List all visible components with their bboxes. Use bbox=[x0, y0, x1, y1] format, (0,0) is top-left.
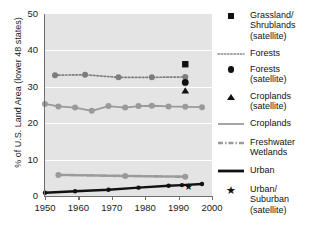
series-line-freshwater-wetlands bbox=[58, 175, 185, 177]
x-tick-mark-1980 bbox=[145, 196, 146, 200]
x-tick-label-1950: 1950 bbox=[27, 203, 63, 213]
series-point bbox=[115, 74, 121, 80]
series-point bbox=[182, 174, 188, 180]
series-point bbox=[52, 72, 58, 78]
series-point bbox=[122, 173, 128, 179]
chart-legend: Grassland/ Shrublands (satellite) Forest… bbox=[216, 6, 322, 228]
y-axis-line bbox=[44, 14, 45, 197]
series-point bbox=[149, 103, 155, 109]
legend-item-croplands[interactable]: Croplands bbox=[216, 118, 291, 129]
legend-label-croplands-satellite: Croplands (satellite) bbox=[246, 91, 291, 112]
x-tick-label-1990: 1990 bbox=[161, 203, 197, 213]
satellite-marker-triangle bbox=[181, 87, 189, 93]
legend-item-forests[interactable]: Forests bbox=[216, 48, 280, 59]
y-tick-label-30: 30 bbox=[14, 82, 38, 92]
x-tick-label-1980: 1980 bbox=[127, 203, 163, 213]
series-point bbox=[55, 172, 61, 178]
x-axis-line bbox=[44, 196, 212, 197]
series-point bbox=[182, 104, 188, 110]
legend-item-croplands-satellite[interactable]: Croplands (satellite) bbox=[216, 91, 291, 112]
legend-key-square-icon bbox=[216, 10, 246, 21]
series-point bbox=[55, 103, 61, 109]
series-point bbox=[166, 184, 170, 188]
legend-item-grassland-shrublands-satellite[interactable]: Grassland/ Shrublands (satellite) bbox=[216, 10, 296, 41]
x-tick-mark-1990 bbox=[179, 196, 180, 200]
chart-root: % of U.S. Land Area (lower 48 states) 50… bbox=[0, 0, 322, 233]
series-point bbox=[149, 74, 155, 80]
satellite-marker-square bbox=[182, 61, 188, 67]
series-layer: ★ bbox=[45, 14, 212, 196]
x-tick-label-1970: 1970 bbox=[94, 203, 130, 213]
legend-key-solid-gray-line-icon bbox=[216, 118, 246, 129]
legend-key-circle-icon bbox=[216, 64, 246, 75]
x-tick-mark-2000 bbox=[212, 196, 213, 200]
series-point bbox=[105, 103, 111, 109]
series-point bbox=[89, 108, 95, 114]
legend-label-forests-satellite: Forests (satellite) bbox=[246, 64, 287, 85]
y-tick-label-40: 40 bbox=[14, 45, 38, 55]
series-point bbox=[199, 104, 205, 110]
series-point bbox=[122, 105, 128, 111]
plot-area: ★ bbox=[45, 14, 212, 196]
y-tick-label-10: 10 bbox=[14, 155, 38, 165]
legend-key-triangle-icon bbox=[216, 91, 246, 102]
legend-label-freshwater-wetlands: Freshwater Wetlands bbox=[246, 137, 295, 158]
satellite-marker-circle bbox=[182, 79, 189, 86]
legend-key-dotted-line-icon bbox=[216, 48, 246, 59]
legend-key-solid-black-line-icon bbox=[216, 165, 246, 176]
legend-item-freshwater-wetlands[interactable]: Freshwater Wetlands bbox=[216, 137, 295, 158]
legend-label-grassland-shrublands-satellite: Grassland/ Shrublands (satellite) bbox=[246, 10, 296, 41]
series-point bbox=[106, 188, 110, 192]
x-tick-mark-1960 bbox=[78, 196, 79, 200]
legend-key-dash-dot-line-icon bbox=[216, 137, 246, 148]
y-tick-label-50: 50 bbox=[14, 9, 38, 19]
y-tick-label-20: 20 bbox=[14, 118, 38, 128]
series-point bbox=[166, 103, 172, 109]
series-point bbox=[136, 185, 140, 189]
x-tick-label-1960: 1960 bbox=[60, 203, 96, 213]
legend-label-urban-suburban-satellite: Urban/ Suburban (satellite) bbox=[246, 184, 289, 215]
legend-key-star-icon: ★ bbox=[216, 184, 246, 195]
series-point bbox=[136, 103, 142, 109]
series-point bbox=[72, 105, 78, 111]
satellite-marker-star: ★ bbox=[184, 181, 193, 192]
legend-label-urban: Urban bbox=[246, 165, 275, 175]
legend-item-urban-suburban-satellite[interactable]: ★ Urban/ Suburban (satellite) bbox=[216, 184, 289, 215]
x-tick-mark-1970 bbox=[112, 196, 113, 200]
legend-label-croplands: Croplands bbox=[246, 118, 291, 128]
series-line-urban bbox=[45, 184, 202, 193]
legend-label-forests: Forests bbox=[246, 48, 280, 58]
x-tick-mark-1950 bbox=[45, 196, 46, 200]
series-point bbox=[200, 182, 204, 186]
y-tick-label-0: 0 bbox=[14, 191, 38, 201]
series-point bbox=[73, 189, 77, 193]
legend-item-forests-satellite[interactable]: Forests (satellite) bbox=[216, 64, 287, 85]
series-point bbox=[82, 72, 88, 78]
legend-item-urban[interactable]: Urban bbox=[216, 165, 275, 176]
